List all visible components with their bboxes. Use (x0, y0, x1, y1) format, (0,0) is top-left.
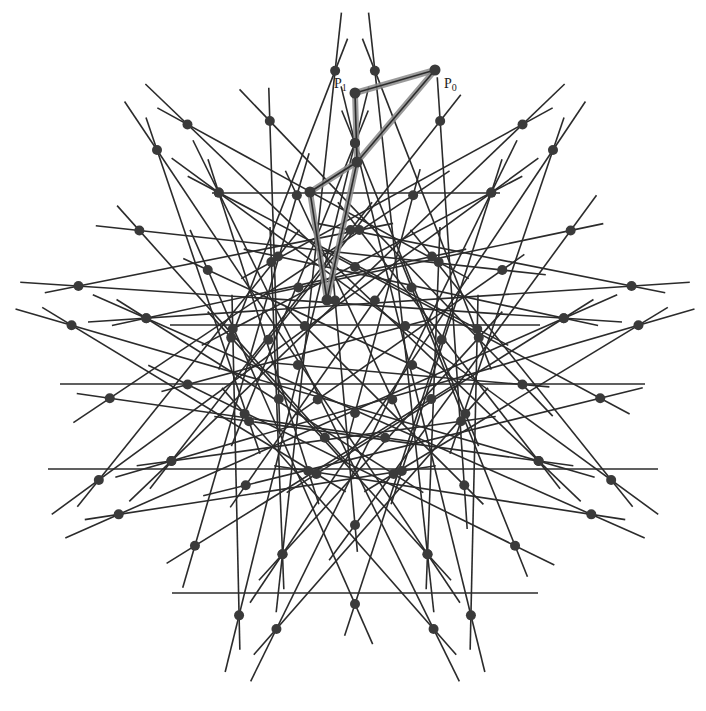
vertex (114, 509, 124, 519)
vertex (606, 475, 616, 485)
arrangement-line (208, 312, 451, 581)
vertex (226, 333, 236, 343)
vertex (586, 509, 596, 519)
vertex (240, 409, 250, 419)
vertex (292, 190, 302, 200)
vertex (277, 549, 287, 559)
vertex (273, 251, 283, 261)
vertex (397, 466, 407, 476)
vertex (559, 313, 569, 323)
vertex (459, 480, 469, 490)
vertex (350, 262, 360, 272)
vertex (241, 480, 251, 490)
vertex (407, 360, 417, 370)
vertex (214, 188, 224, 198)
arrangement-line (426, 227, 440, 589)
label-p0: P0 (444, 76, 457, 93)
vertex (234, 610, 244, 620)
arrangement-line (77, 230, 299, 507)
vertex (627, 281, 637, 291)
vertex (380, 433, 390, 443)
vertex (190, 541, 200, 551)
vertex (566, 226, 576, 236)
vertex (313, 394, 323, 404)
arrangement-line (42, 307, 346, 491)
arrangement-line (65, 295, 617, 538)
vertex (387, 394, 397, 404)
vertex (265, 116, 275, 126)
vertex (370, 295, 380, 305)
vertex (510, 541, 520, 551)
arrangement-line (254, 388, 488, 655)
vertex (152, 145, 162, 155)
vertex (400, 321, 410, 331)
vertex (293, 360, 303, 370)
vertex (497, 265, 507, 275)
arrangement-line (270, 227, 284, 589)
vertex (228, 324, 238, 334)
arrangement-line (125, 101, 460, 602)
vertex (141, 313, 151, 323)
vertex (350, 408, 360, 418)
vertex (472, 324, 482, 334)
vertex (466, 610, 476, 620)
arrangement-line (183, 153, 309, 588)
vertex (350, 599, 360, 609)
arrangement-line (16, 309, 595, 477)
vertex (182, 119, 192, 129)
vertex (350, 520, 360, 530)
vertex (534, 456, 544, 466)
path-vertex (305, 187, 316, 198)
vertex (426, 394, 436, 404)
vertex (203, 265, 213, 275)
arrangement-line (145, 84, 580, 501)
vertex (548, 145, 558, 155)
vertex (408, 190, 418, 200)
arrangement-line (437, 77, 467, 529)
vertex (429, 624, 439, 634)
vertex (350, 138, 360, 148)
vertex (263, 335, 273, 345)
star-line-arrangement-diagram: P1 P0 (0, 0, 706, 711)
arrangement-line (193, 140, 459, 681)
vertex (370, 66, 380, 76)
vertex (354, 225, 364, 235)
arrangement-line (251, 140, 517, 681)
vertex (73, 281, 83, 291)
vertex (303, 466, 313, 476)
vertex (486, 188, 496, 198)
vertex (274, 394, 284, 404)
vertex (330, 66, 340, 76)
vertex (293, 283, 303, 293)
vertex (346, 225, 356, 235)
vertex (183, 380, 193, 390)
vertex (94, 475, 104, 485)
vertex (518, 119, 528, 129)
vertex (134, 226, 144, 236)
arrangement-line (240, 89, 553, 416)
path-vertex (430, 65, 441, 76)
vertex (300, 321, 310, 331)
path-vertex (350, 88, 361, 99)
vertex (474, 333, 484, 343)
arrangement-line (222, 388, 456, 655)
path-vertex (322, 295, 333, 306)
vertex (67, 320, 77, 330)
arrangement-line (470, 295, 478, 650)
label-p1: P1 (334, 76, 347, 93)
vertex (437, 335, 447, 345)
vertex (320, 433, 330, 443)
vertex (595, 393, 605, 403)
vertex (456, 416, 466, 426)
vertex (435, 116, 445, 126)
vertex (105, 393, 115, 403)
arrangement-line (232, 295, 240, 650)
vertex (434, 257, 444, 267)
arrangement-line (259, 312, 502, 581)
vertex (633, 320, 643, 330)
vertex (517, 380, 527, 390)
vertex (166, 456, 176, 466)
path-vertex (352, 157, 363, 168)
vertex (423, 549, 433, 559)
vertex (271, 624, 281, 634)
